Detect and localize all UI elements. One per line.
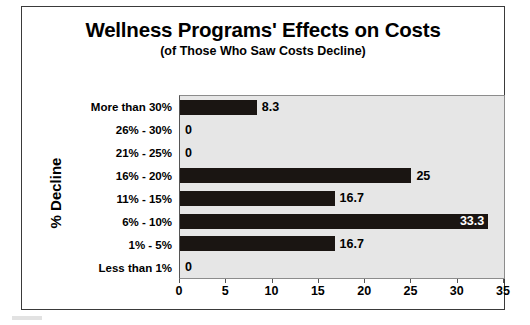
x-axis-tick-labels: 05101520253035 [179, 284, 505, 302]
bar-value-label: 0 [185, 260, 192, 274]
chart-frame: Wellness Programs' Effects on Costs (of … [21, 6, 505, 310]
bar-row: 0 [180, 255, 504, 278]
bar: 16.7 [180, 236, 335, 251]
y-axis-tick-label: 11% - 15% [77, 187, 177, 210]
bar-row: 0 [180, 142, 504, 165]
bar-value-label: 8.3 [262, 100, 279, 114]
bar-value-label: 33.3 [460, 214, 484, 228]
x-axis-tick-label: 30 [450, 284, 464, 298]
x-axis-tick-mark [318, 279, 319, 283]
bar-series: 8.3 0 0 25 16.7 [180, 96, 504, 278]
x-axis-tick-label: 10 [265, 284, 279, 298]
y-axis-tick-labels: More than 30% 26% - 30% 21% - 25% 16% - … [77, 95, 177, 279]
bar: 33.3 [180, 214, 488, 229]
bar-row: 16.7 [180, 233, 504, 256]
bar-value-label: 25 [416, 169, 430, 183]
x-axis-tick-label: 5 [222, 284, 229, 298]
chart-subtitle: (of Those Who Saw Costs Decline) [22, 45, 504, 59]
bar-row: 8.3 [180, 96, 504, 119]
bar-row: 25 [180, 164, 504, 187]
x-axis-tick-mark [364, 279, 365, 283]
x-axis-tick-mark [225, 279, 226, 283]
title-block: Wellness Programs' Effects on Costs (of … [22, 19, 504, 58]
bar-row: 33.3 [180, 210, 504, 233]
bar: 16.7 [180, 191, 335, 206]
x-axis-tick-label: 25 [403, 284, 417, 298]
page-title: Wellness Programs' Effects on Costs [22, 19, 504, 42]
x-axis-tick-mark [272, 279, 273, 283]
x-axis-tick-label: 20 [357, 284, 371, 298]
plot-area: 8.3 0 0 25 16.7 [179, 95, 505, 279]
y-axis-tick-label: Less than 1% [77, 256, 177, 279]
y-axis-tick-label: 6% - 10% [77, 210, 177, 233]
x-axis-tick-mark [410, 279, 411, 283]
bar-row: 16.7 [180, 187, 504, 210]
y-axis-tick-label: 26% - 30% [77, 118, 177, 141]
x-axis-tick-mark [179, 279, 180, 283]
bar: 8.3 [180, 100, 257, 115]
x-axis-tick-mark [503, 279, 504, 283]
x-axis-tick-label: 35 [496, 284, 510, 298]
y-axis-title: % Decline [46, 103, 66, 283]
scan-artifact [12, 316, 42, 320]
y-axis-tick-label: 21% - 25% [77, 141, 177, 164]
bar-value-label: 0 [185, 146, 192, 160]
x-axis-tick-label: 0 [176, 284, 183, 298]
bar-row: 0 [180, 119, 504, 142]
bar: 25 [180, 168, 411, 183]
bar-value-label: 16.7 [340, 237, 364, 251]
y-axis-tick-label: 16% - 20% [77, 164, 177, 187]
bar-value-label: 16.7 [340, 191, 364, 205]
bar-value-label: 0 [185, 123, 192, 137]
y-axis-tick-label: 1% - 5% [77, 233, 177, 256]
y-axis-tick-label: More than 30% [77, 95, 177, 118]
x-axis-tick-mark [457, 279, 458, 283]
x-axis-tick-label: 15 [311, 284, 325, 298]
